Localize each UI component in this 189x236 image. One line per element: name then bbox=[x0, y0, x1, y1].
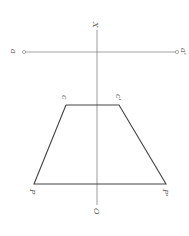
label-c: c bbox=[60, 95, 69, 100]
point-a bbox=[22, 50, 25, 53]
label-p: P bbox=[28, 188, 37, 195]
point-a-prime bbox=[175, 50, 178, 53]
trapezoid-outline bbox=[34, 105, 166, 184]
label-a: a bbox=[9, 49, 18, 54]
label-a-prime: a' bbox=[179, 48, 188, 55]
projection-diagram: X a a' c c' P P' O bbox=[0, 0, 189, 236]
label-p-prime: P' bbox=[161, 188, 170, 197]
label-c-prime: c' bbox=[114, 94, 123, 101]
label-origin: O bbox=[92, 208, 101, 215]
label-x-axis: X bbox=[91, 21, 100, 28]
